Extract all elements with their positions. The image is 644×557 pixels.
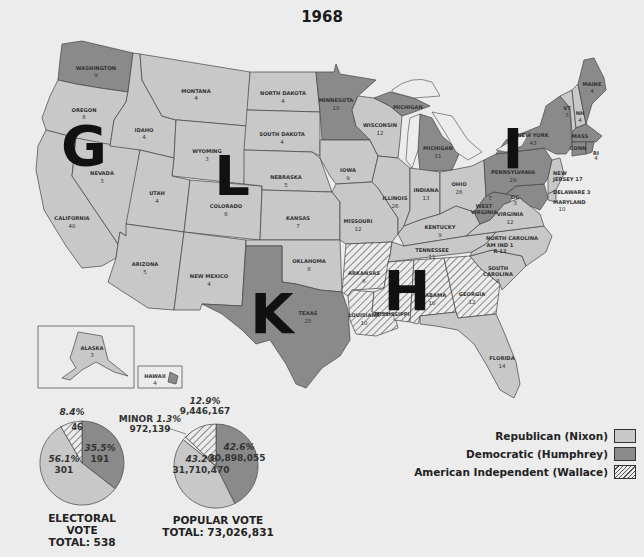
svg-text:7: 7 <box>488 195 492 201</box>
swatch-republican <box>614 429 636 443</box>
svg-text:DELAWARE 3: DELAWARE 3 <box>553 189 591 195</box>
svg-text:7: 7 <box>296 223 300 229</box>
ev-rep-value: 301 <box>55 465 74 475</box>
svg-text:OKLAHOMA: OKLAHOMA <box>292 258 326 264</box>
svg-text:4: 4 <box>590 88 594 94</box>
svg-text:25: 25 <box>305 318 312 324</box>
svg-text:26: 26 <box>392 203 399 209</box>
svg-text:INDIANA: INDIANA <box>414 187 439 193</box>
svg-text:8: 8 <box>307 266 311 272</box>
svg-text:12: 12 <box>507 219 514 225</box>
pv-minor-value: 972,139 <box>130 424 171 434</box>
svg-text:VIRGINIA: VIRGINIA <box>497 211 523 217</box>
svg-text:21: 21 <box>435 153 442 159</box>
svg-text:GEORGIA: GEORGIA <box>459 291 485 297</box>
svg-text:IDAHO: IDAHO <box>134 127 154 133</box>
svg-text:10: 10 <box>333 105 340 111</box>
svg-text:MAINE: MAINE <box>583 81 602 87</box>
svg-text:HAWAII: HAWAII <box>144 373 166 379</box>
svg-text:IOWA: IOWA <box>340 167 356 173</box>
legend-republican: Republican (Nixon) <box>414 427 636 444</box>
svg-text:ILLINOIS: ILLINOIS <box>383 195 408 201</box>
svg-text:3: 3 <box>205 156 209 162</box>
pv-dem-value: 30,898,055 <box>209 453 266 463</box>
svg-text:4: 4 <box>280 139 284 145</box>
svg-text:12: 12 <box>377 130 384 136</box>
svg-text:TEXAS: TEXAS <box>299 310 318 316</box>
ev-dem-pct: 35.5% <box>84 443 115 453</box>
ev-dem-value: 191 <box>91 454 110 464</box>
svg-text:VT: VT <box>563 105 571 111</box>
svg-text:WISCONSIN: WISCONSIN <box>363 122 397 128</box>
legend-wallace: American Independent (Wallace) <box>414 463 636 480</box>
pv-wallace-value: 9,446,167 <box>180 406 231 416</box>
svg-text:MISSOURI: MISSOURI <box>344 218 373 224</box>
svg-text:SOUTH DAKOTA: SOUTH DAKOTA <box>259 131 305 137</box>
svg-text:12: 12 <box>469 299 476 305</box>
svg-text:9: 9 <box>346 175 350 181</box>
svg-text:4: 4 <box>281 98 285 104</box>
svg-text:KANSAS: KANSAS <box>286 215 310 221</box>
svg-text:KENTUCKY: KENTUCKY <box>424 224 455 230</box>
svg-text:4: 4 <box>155 198 159 204</box>
letter-g: G <box>61 113 107 178</box>
svg-text:UTAH: UTAH <box>149 190 165 196</box>
svg-text:9: 9 <box>94 72 98 78</box>
svg-text:ARKANSAS: ARKANSAS <box>348 270 380 276</box>
svg-text:3: 3 <box>90 352 94 358</box>
svg-text:26: 26 <box>456 189 463 195</box>
svg-text:MASS: MASS <box>572 133 589 139</box>
svg-text:6: 6 <box>362 278 366 284</box>
svg-text:4: 4 <box>153 380 157 386</box>
state-new-mexico <box>174 232 246 310</box>
svg-text:VIRGINIA: VIRGINIA <box>471 209 497 215</box>
legend-democratic: Democratic (Humphrey) <box>414 445 636 462</box>
svg-text:43: 43 <box>530 140 537 146</box>
svg-text:4: 4 <box>207 281 211 287</box>
svg-text:ALASKA: ALASKA <box>80 345 103 351</box>
svg-text:8: 8 <box>496 278 500 284</box>
svg-text:MICHIGAN: MICHIGAN <box>393 104 423 110</box>
svg-text:10: 10 <box>361 320 368 326</box>
state-nebraska <box>244 150 332 192</box>
svg-text:40: 40 <box>69 223 76 229</box>
svg-text:MARYLAND: MARYLAND <box>553 199 586 205</box>
pv-rep-pct: 43.2% <box>184 454 216 464</box>
svg-text:5: 5 <box>143 269 147 275</box>
svg-text:OHIO: OHIO <box>451 181 467 187</box>
popular-vote-caption: POPULAR VOTE TOTAL: 73,026,831 <box>158 514 278 538</box>
pv-minor-label: MINOR 1.3% <box>119 414 182 424</box>
state-arizona <box>108 224 184 310</box>
svg-text:3: 3 <box>513 200 517 206</box>
lake-michigan <box>406 114 420 168</box>
ev-wallace-pct: 8.4% <box>60 407 85 417</box>
svg-text:10: 10 <box>559 206 566 212</box>
svg-text:14: 14 <box>499 363 506 369</box>
swatch-wallace <box>614 465 636 479</box>
minor-leader-line <box>168 428 186 434</box>
svg-text:NH: NH <box>576 110 585 116</box>
svg-text:3: 3 <box>565 112 569 118</box>
letter-h: H <box>384 258 431 323</box>
svg-text:R 12: R 12 <box>493 248 506 254</box>
legend: Republican (Nixon) Democratic (Humphrey)… <box>414 427 636 481</box>
letter-l: L <box>214 143 250 208</box>
svg-text:CAROLINA: CAROLINA <box>483 271 513 277</box>
label-wa: WASHINGTON <box>76 65 116 71</box>
svg-text:MINNESOTA: MINNESOTA <box>319 97 354 103</box>
ev-wallace-value: 46 <box>71 423 83 432</box>
svg-text:MICHIGAN: MICHIGAN <box>423 145 453 151</box>
svg-text:4: 4 <box>142 134 146 140</box>
svg-text:3: 3 <box>100 178 104 184</box>
letter-k: K <box>250 281 296 346</box>
svg-text:TENNESSEE: TENNESSEE <box>415 247 449 253</box>
svg-text:6: 6 <box>224 211 228 217</box>
svg-text:NEBRASKA: NEBRASKA <box>270 174 302 180</box>
svg-text:FLORIDA: FLORIDA <box>489 355 514 361</box>
svg-text:13: 13 <box>423 195 430 201</box>
svg-text:5: 5 <box>284 182 288 188</box>
svg-text:NORTH CAROLINA: NORTH CAROLINA <box>486 235 538 241</box>
svg-text:MONTANA: MONTANA <box>181 88 210 94</box>
svg-text:CALIFORNIA: CALIFORNIA <box>54 215 89 221</box>
svg-text:12: 12 <box>355 226 362 232</box>
